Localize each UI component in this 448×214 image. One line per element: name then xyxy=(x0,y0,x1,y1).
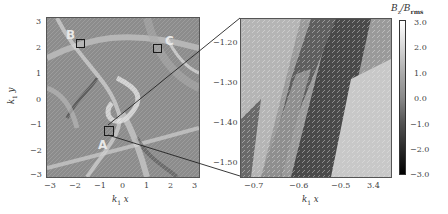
right-ytick: −1.20 xyxy=(213,38,238,47)
colorbar-tick: −3.0 xyxy=(410,170,429,179)
cbar-den-sub: rms xyxy=(410,8,423,15)
right-xtick: −0.7 xyxy=(244,181,263,190)
right-xlabel: k1 x xyxy=(302,194,318,206)
zoomed-field-map xyxy=(241,19,391,177)
xlabel-sub: 1 xyxy=(307,199,311,206)
xlabel-var: x xyxy=(314,194,319,204)
colorbar-tick: 2.0 xyxy=(414,43,427,52)
right-xtick: 3.4 xyxy=(367,181,380,190)
right-xtick: −0.5 xyxy=(331,181,350,190)
right-ytick: −1.40 xyxy=(213,118,238,127)
colorbar xyxy=(399,20,406,175)
zoomed-region-plot xyxy=(240,18,392,178)
colorbar-tick: 0.0 xyxy=(414,94,427,103)
cbar-num-sub: z xyxy=(398,8,401,15)
colorbar-tick: 3.0 xyxy=(414,18,427,27)
colorbar-tick: −1.0 xyxy=(410,120,429,129)
right-ytick: −1.30 xyxy=(213,78,238,87)
right-ytick: −1.50 xyxy=(213,158,238,167)
colorbar-title: Bz/Brms xyxy=(391,3,423,15)
right-xtick: −0.6 xyxy=(289,181,308,190)
cbar-num: B xyxy=(391,3,398,13)
colorbar-tick: 1.0 xyxy=(414,69,427,78)
colorbar-tick: −2.0 xyxy=(410,145,429,154)
